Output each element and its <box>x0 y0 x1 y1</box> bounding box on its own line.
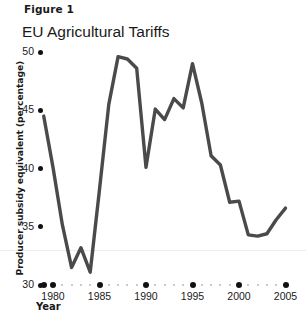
chart-plot-area: Producer subsidy equivalent (percentage)… <box>0 0 306 318</box>
figure-card: Figure 1 EU Agricultural Tariffs Produce… <box>0 0 306 318</box>
series-line-producer-subsidy-equivalent <box>44 57 286 273</box>
series-line-chart <box>0 0 306 318</box>
